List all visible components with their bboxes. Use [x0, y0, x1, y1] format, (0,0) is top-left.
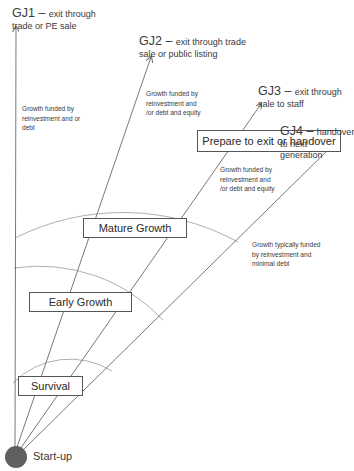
journey-desc-line2: sale or public listing	[139, 49, 246, 60]
journey-label-gj3: GJ3 – exit through sale to staff	[258, 80, 342, 110]
journey-id: GJ3	[258, 84, 281, 98]
note-line: Growth typically funded	[252, 240, 321, 250]
note-line: Growth funded by	[146, 89, 201, 99]
journey-line-gj3	[18, 104, 261, 452]
note-line: reinvestment and	[220, 175, 275, 185]
origin-text: Start-up	[33, 450, 72, 462]
note-line: minimal debt	[252, 259, 321, 269]
journey-desc-line3: generation	[280, 150, 354, 161]
stage-label: Survival	[31, 380, 70, 392]
journey-dash: –	[162, 34, 176, 48]
note-line: /or debt and equity	[220, 184, 275, 194]
journey-line-gj1	[15, 27, 16, 450]
journey-id: GJ1	[12, 6, 35, 20]
journey-desc-line2: to next	[280, 139, 354, 150]
note-line: debt	[22, 123, 80, 133]
note-line: reinvestment and or	[22, 114, 80, 124]
stage-early-growth: Early Growth	[29, 292, 132, 312]
journey-desc-line1: exit through trade	[176, 37, 246, 47]
funding-note-gj3: Growth funded by reinvestment and /or de…	[220, 165, 275, 194]
journey-desc-line1: exit through	[295, 87, 342, 97]
funding-note-gj1: Growth funded by reinvestment and or deb…	[22, 104, 80, 133]
journey-label-gj2: GJ2 – exit through trade sale or public …	[139, 30, 246, 60]
funding-note-gj4: Growth typically funded by reinvestment …	[252, 240, 321, 269]
journey-dash: –	[35, 6, 49, 20]
stage-mature-growth: Mature Growth	[83, 218, 187, 238]
start-up-label: Start-up	[33, 450, 72, 463]
note-line: Growth funded by	[22, 104, 80, 114]
journey-id: GJ2	[139, 34, 162, 48]
journey-dash: –	[303, 124, 317, 138]
note-line: Growth funded by	[220, 165, 275, 175]
journey-label-gj4: GJ4 – handover to next generation	[280, 120, 354, 161]
journey-desc-line2: trade or PE sale	[12, 21, 96, 32]
journey-id: GJ4	[280, 124, 303, 138]
journey-desc-line1: handover	[317, 127, 354, 137]
note-line: reinvestment and	[146, 99, 201, 109]
funding-note-gj2: Growth funded by reinvestment and /or de…	[146, 89, 201, 118]
start-up-node	[5, 446, 27, 468]
journey-label-gj1: GJ1 – exit through trade or PE sale	[12, 2, 96, 32]
journey-dash: –	[281, 84, 295, 98]
stage-label: Mature Growth	[99, 222, 172, 234]
journey-desc-line2: sale to staff	[258, 99, 342, 110]
stage-label: Early Growth	[49, 296, 113, 308]
stage-survival: Survival	[18, 376, 83, 396]
note-line: /or debt and equity	[146, 108, 201, 118]
journey-desc-line1: exit through	[49, 9, 96, 19]
note-line: by reinvestment and	[252, 250, 321, 260]
